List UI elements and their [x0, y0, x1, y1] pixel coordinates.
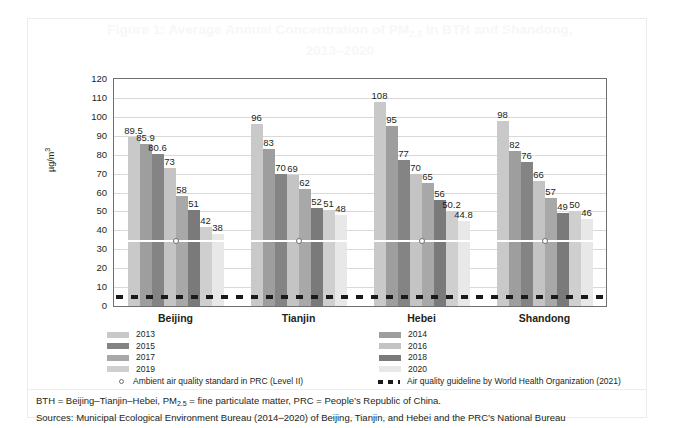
- bar-hebei-2020[interactable]: [458, 221, 470, 306]
- legend-swatch: [379, 343, 401, 349]
- bar-group-beijing: 89.585.980.67358514238Beijing: [128, 79, 224, 306]
- bar-value-label: 82: [509, 139, 520, 150]
- legend-label: 2014: [408, 329, 427, 340]
- bar-value-label: 70: [410, 162, 421, 173]
- bar-value-label: 58: [176, 184, 187, 195]
- prc-standard-marker: [542, 238, 548, 244]
- legend-label: 2017: [136, 352, 155, 363]
- legend-item-2019[interactable]: 2019: [107, 364, 155, 376]
- bar-shandong-2020[interactable]: [581, 219, 593, 306]
- legend-swatch: [379, 366, 401, 372]
- y-axis-tick-label: 10: [79, 281, 107, 292]
- bar-value-label: 52: [311, 196, 322, 207]
- bar-value-label: 70: [275, 162, 286, 173]
- who-guideline-line: [116, 295, 604, 299]
- y-axis-tick-label: 20: [79, 262, 107, 273]
- dashed-line-icon: [378, 380, 400, 384]
- bar-shandong-2013[interactable]: [497, 121, 509, 306]
- bar-tianjin-2018[interactable]: [311, 208, 323, 306]
- bar-value-label: 96: [251, 112, 262, 123]
- bar-tianjin-2020[interactable]: [335, 215, 347, 306]
- footnote-separator: [28, 389, 646, 390]
- bar-beijing-2016[interactable]: [164, 168, 176, 306]
- bar-value-label: 49: [557, 201, 568, 212]
- legend-item-2018[interactable]: 2018: [379, 352, 427, 364]
- y-axis-tick-label: 70: [79, 168, 107, 179]
- bar-value-label: 51: [323, 198, 334, 209]
- legend-prc-label: Ambient air quality standard in PRC (Lev…: [133, 376, 303, 387]
- notes-abbrev-subscript: 2.5: [177, 400, 187, 407]
- bar-value-label: 73: [164, 156, 175, 167]
- prc-standard-line: [114, 240, 606, 243]
- bar-beijing-2017[interactable]: [176, 196, 188, 306]
- legend-item-2020[interactable]: 2020: [379, 364, 427, 376]
- bar-shandong-2014[interactable]: [509, 151, 521, 306]
- legend-swatch: [107, 366, 129, 372]
- figure-title-subscript: 2.5: [409, 29, 422, 39]
- bar-value-label: 44.8: [454, 209, 473, 220]
- bar-value-label: 62: [299, 177, 310, 188]
- bar-hebei-2014[interactable]: [386, 126, 398, 306]
- legend-item-2014[interactable]: 2014: [379, 329, 427, 341]
- bar-hebei-2013[interactable]: [374, 102, 386, 306]
- legend-item-2017[interactable]: 2017: [107, 352, 155, 364]
- bar-value-label: 69: [287, 163, 298, 174]
- bar-tianjin-2013[interactable]: [251, 124, 263, 306]
- bar-value-label: 80.6: [148, 142, 167, 153]
- legend-column-left: 2013201520172019: [107, 329, 155, 375]
- bar-shandong-2019[interactable]: [569, 211, 581, 306]
- prc-standard-marker: [173, 238, 179, 244]
- x-axis-group-label: Hebei: [374, 312, 470, 324]
- legend-swatch: [379, 332, 401, 338]
- legend-swatch: [107, 332, 129, 338]
- bar-value-label: 48: [335, 203, 346, 214]
- legend-item-2015[interactable]: 2015: [107, 341, 155, 353]
- bar-groups: 89.585.980.67358514238Beijing96837069625…: [114, 79, 606, 306]
- legend-who-guideline: Air quality guideline by World Health Or…: [378, 376, 621, 387]
- prc-standard-marker: [296, 238, 302, 244]
- bar-value-label: 95: [386, 114, 397, 125]
- y-axis-tick-label: 30: [79, 243, 107, 254]
- bar-hebei-2018[interactable]: [434, 200, 446, 306]
- bar-beijing-2018[interactable]: [188, 210, 200, 306]
- chart-legend: 2013201520172019 2014201620182020 Ambien…: [107, 329, 627, 379]
- notes-sources: Sources: Municipal Ecological Environmen…: [36, 410, 656, 426]
- bar-hebei-2019[interactable]: [446, 211, 458, 306]
- x-axis-group-label: Shandong: [497, 312, 593, 324]
- bar-beijing-2014[interactable]: [140, 144, 152, 306]
- figure-title-part1: Figure 1: Average Annual Concentration o…: [107, 22, 409, 37]
- y-axis-title: µg/m3: [44, 148, 56, 172]
- legend-swatch: [107, 343, 129, 349]
- bar-shandong-2015[interactable]: [521, 162, 533, 306]
- legend-item-2016[interactable]: 2016: [379, 341, 427, 353]
- bar-value-label: 50: [569, 199, 580, 210]
- bar-value-label: 65: [422, 171, 433, 182]
- y-axis-tick-label: 50: [79, 205, 107, 216]
- bar-tianjin-2014[interactable]: [263, 149, 275, 306]
- bar-hebei-2015[interactable]: [398, 160, 410, 306]
- legend-column-right: 2014201620182020: [379, 329, 427, 375]
- bar-group-tianjin: 9683706962525148Tianjin: [251, 79, 347, 306]
- bar-value-label: 57: [545, 186, 556, 197]
- bar-beijing-2015[interactable]: [152, 154, 164, 306]
- legend-item-2013[interactable]: 2013: [107, 329, 155, 341]
- notes-abbreviations: BTH = Beijing–Tianjin–Hebei, PM2.5 = fin…: [36, 393, 656, 410]
- bar-tianjin-2019[interactable]: [323, 210, 335, 306]
- bar-beijing-2013[interactable]: [128, 137, 140, 306]
- y-axis-tick-label: 110: [79, 92, 107, 103]
- bar-group-hebei: 108957770655650.244.8Hebei: [374, 79, 470, 306]
- figure-notes: BTH = Beijing–Tianjin–Hebei, PM2.5 = fin…: [36, 393, 656, 426]
- bar-value-label: 108: [372, 90, 388, 101]
- legend-who-label: Air quality guideline by World Health Or…: [407, 376, 621, 387]
- bar-value-label: 98: [497, 109, 508, 120]
- bar-value-label: 76: [521, 150, 532, 161]
- bar-shandong-2018[interactable]: [557, 213, 569, 306]
- y-axis-tick-label: 100: [79, 111, 107, 122]
- y-axis-tick-label: 80: [79, 149, 107, 160]
- bar-hebei-2017[interactable]: [422, 183, 434, 306]
- figure-title: Figure 1: Average Annual Concentration o…: [60, 20, 620, 60]
- legend-label: 2015: [136, 341, 155, 352]
- bar-shandong-2017[interactable]: [545, 198, 557, 306]
- y-axis-tick-label: 90: [79, 130, 107, 141]
- bar-tianjin-2017[interactable]: [299, 189, 311, 306]
